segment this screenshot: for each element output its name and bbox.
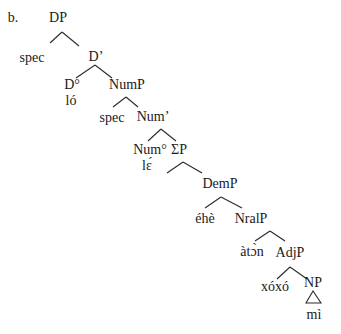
word-nral: àtɔ̀n (240, 244, 263, 260)
node-num-bar: Num’ (137, 109, 170, 125)
branch-dp-dbar (62, 32, 79, 46)
node-adjp: AdjP (276, 245, 305, 261)
branch-demp-dem (205, 197, 221, 208)
np-triangle (306, 291, 321, 303)
tree-branches (0, 0, 341, 334)
word-num: lɛ́ (142, 158, 152, 174)
branch-nralp-nral (255, 231, 270, 241)
branch-numbar-sigmap (161, 129, 176, 141)
node-d-bar: D’ (89, 49, 104, 65)
branch-demp-nralp (221, 197, 242, 208)
node-demp: DemP (203, 176, 238, 192)
word-adj: xóxó (261, 279, 289, 295)
word-np: mì (307, 307, 322, 323)
node-d-head: D° (64, 77, 80, 93)
node-sigmap: ΣP (171, 142, 187, 158)
node-dp-spec: spec (20, 50, 45, 66)
branch-dp-spec (50, 32, 62, 43)
node-nralp: NralP (235, 211, 268, 227)
node-nump-spec: spec (100, 110, 125, 126)
branch-nralp-adjp (270, 231, 285, 241)
branch-nump-spec (113, 97, 126, 107)
branch-numbar-numhead (148, 129, 161, 141)
node-dp: DP (49, 10, 67, 26)
word-d: ló (66, 93, 77, 109)
node-num-head: Num° (133, 142, 167, 158)
branch-sigmap-empty (167, 162, 183, 173)
node-nump: NumP (109, 77, 145, 93)
syntax-tree: b. DP spec D’ D° ló NumP spec Num’ Num° … (0, 0, 341, 334)
branch-nump-numbar (126, 97, 138, 107)
node-np: NP (304, 275, 322, 291)
word-dem: éhè (195, 211, 214, 227)
branch-sigmap-demp (183, 162, 202, 173)
branch-adjp-adj (277, 267, 290, 279)
